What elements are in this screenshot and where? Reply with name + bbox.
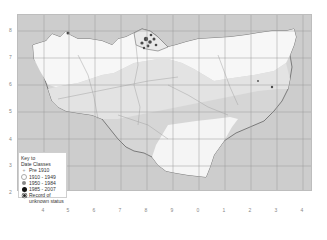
x-tick: 4	[301, 207, 304, 213]
x-tick: 5	[67, 207, 70, 213]
open-circle-icon	[21, 174, 27, 180]
y-tick: 2	[9, 189, 12, 195]
legend-item-continuation: unknown status	[21, 198, 64, 204]
y-tick: 3	[9, 162, 12, 168]
map-legend: Key to Date Classes + Pre 1910 1910 - 19…	[18, 152, 67, 198]
grey-circle-icon	[21, 180, 27, 186]
x-tick: 2	[249, 207, 252, 213]
y-tick: 4	[9, 136, 12, 142]
y-tick: 7	[9, 54, 12, 60]
y-tick: 5	[9, 108, 12, 114]
small-cross-icon: +	[21, 168, 27, 174]
x-tick: 0	[197, 207, 200, 213]
x-tick: 9	[171, 207, 174, 213]
star-dot-icon	[21, 192, 27, 198]
x-tick: 7	[119, 207, 122, 213]
y-tick: 6	[9, 81, 12, 87]
x-tick: 3	[275, 207, 278, 213]
x-tick: 1	[223, 207, 226, 213]
y-tick: 8	[9, 27, 12, 33]
black-circle-icon	[21, 186, 27, 192]
x-tick: 8	[145, 207, 148, 213]
x-tick: 4	[42, 207, 45, 213]
x-tick: 6	[93, 207, 96, 213]
